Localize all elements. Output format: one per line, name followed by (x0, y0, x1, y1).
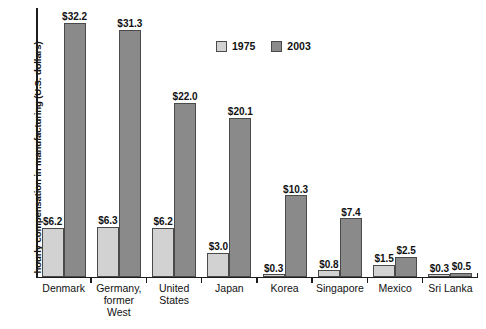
bar-group (312, 9, 367, 277)
plot-area (36, 8, 478, 278)
bar-value-label-1975: $0.8 (306, 259, 352, 270)
bar-value-label-2003: $20.1 (217, 106, 263, 117)
bar-group (257, 9, 312, 277)
bar-group (36, 9, 91, 277)
bar-value-label-2003: $22.0 (162, 91, 208, 102)
bar-1975 (97, 227, 119, 277)
bar-value-label-2003: $2.5 (383, 245, 429, 256)
bar-2003 (119, 30, 141, 277)
bar-value-label-1975: $6.3 (85, 215, 131, 226)
bar-value-label-1975: $0.3 (251, 263, 297, 274)
bar-2003 (229, 118, 251, 277)
chart-screenshot: hourly compensation in manufacturing (U.… (0, 0, 486, 329)
bar-group (202, 9, 257, 277)
bar-1975 (263, 274, 285, 276)
bar-group (147, 9, 202, 277)
bar-value-label-1975: $6.2 (30, 216, 76, 227)
bar-1975 (373, 265, 395, 277)
bar-1975 (152, 228, 174, 277)
x-axis-category-label: Sri Lanka (416, 282, 485, 294)
bar-1975 (318, 270, 340, 276)
bar-value-label-2003: $31.3 (107, 18, 153, 29)
bar-group (368, 9, 423, 277)
bar-value-label-2003: $7.4 (328, 207, 374, 218)
bar-group (91, 9, 146, 277)
bar-group (423, 9, 478, 277)
bar-1975 (428, 274, 450, 276)
bar-value-label-1975: $6.2 (140, 216, 186, 227)
bar-value-label-2003: $0.5 (438, 261, 484, 272)
bar-1975 (42, 228, 64, 277)
bar-value-label-2003: $32.2 (52, 11, 98, 22)
bar-1975 (207, 253, 229, 277)
bar-value-label-1975: $3.0 (195, 241, 241, 252)
bar-2003 (174, 103, 196, 277)
bar-2003 (64, 23, 86, 277)
bar-value-label-2003: $10.3 (273, 184, 319, 195)
